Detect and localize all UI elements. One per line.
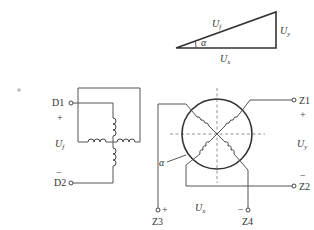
terminal-z3[interactable] [156,208,160,212]
d2-label: D2 [54,177,66,188]
rotor-alpha-label: α [159,157,165,168]
diag-se-inner [217,134,225,142]
wire-se-z4 [234,154,248,208]
rotor-circuit: α Z1 + Uy − Z2 + Z3 Ux − Z4 [152,88,310,227]
ux-voltage-label: Ux [195,202,206,215]
coil-se [225,142,234,154]
uf-voltage-label: Uf [55,138,65,151]
d1-wire [73,103,113,118]
coil-right [117,139,135,142]
terminal-z1[interactable] [292,98,296,102]
coil-left [88,139,106,142]
z2-minus: − [300,170,306,181]
ux-label: Ux [220,53,231,66]
d2-wire [73,166,113,183]
z2-label: Z2 [299,181,310,192]
coil-top [113,118,116,136]
triangle-shape [176,12,276,48]
uy-voltage-label: Uy [297,138,308,151]
terminal-z2[interactable] [292,184,296,188]
wire-sw-z2 [186,154,292,186]
terminal-z4[interactable] [246,208,250,212]
angle-arc [195,42,196,49]
alpha-pointer [167,155,186,162]
wire-nw-z3 [158,104,197,208]
diag-ne-inner [217,126,225,134]
terminal-d1[interactable] [69,101,73,105]
plus-sign: + [57,112,63,123]
z4-minus: − [238,204,244,215]
excitation-circuit: D1 + Uf − D2 [52,88,140,188]
coil-nw [197,117,209,126]
z3-label: Z3 [152,216,163,227]
z4-label: Z4 [242,216,253,227]
stray-dot [17,88,21,92]
alpha-label: α [201,37,207,48]
coil-bottom [113,148,116,166]
terminal-d2[interactable] [69,181,73,185]
z1-label: Z1 [299,95,310,106]
uy-label: Uy [280,25,291,38]
uf-label: Uf [212,18,222,31]
coil-ne [225,117,237,126]
diag-nw-inner [209,126,217,134]
outer-loop-wire [78,88,140,142]
diag-sw-inner [209,134,217,142]
d1-label: D1 [52,97,64,108]
coil-sw [200,142,209,154]
voltage-triangle: Uf Uy Ux α [176,12,291,66]
resolver-diagram: Uf Uy Ux α D1 + Uf − D2 [0,0,314,230]
z3-plus: + [162,204,168,215]
z1-plus: + [300,109,306,120]
